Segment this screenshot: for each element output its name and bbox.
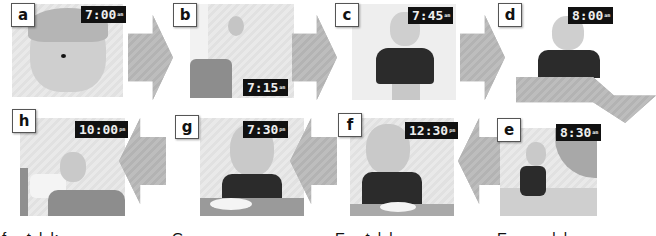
clock-time: 7:30 bbox=[247, 122, 278, 137]
clock-a: 7:00 am bbox=[81, 6, 126, 23]
clock-d: 8:00 am bbox=[568, 7, 613, 24]
arrow-right-3 bbox=[460, 15, 505, 100]
boy-body bbox=[362, 172, 422, 204]
clock-ampm: am bbox=[444, 13, 450, 18]
caption-2: G . bbox=[172, 229, 198, 236]
uniform-jacket bbox=[376, 48, 434, 84]
clock-c: 7:45 am bbox=[408, 7, 453, 24]
panel-label-f: f bbox=[338, 113, 362, 137]
clock-f: 12:30 pm bbox=[405, 122, 458, 139]
panel-label-d: d bbox=[498, 3, 522, 27]
clock-ampm: pm bbox=[449, 128, 455, 133]
boy-body bbox=[222, 174, 282, 200]
clock-g: 7:30 pm bbox=[243, 121, 288, 138]
boy-head bbox=[526, 142, 546, 166]
clock-ampm: pm bbox=[279, 127, 285, 132]
towel bbox=[190, 59, 232, 98]
boy-walking-body bbox=[520, 166, 546, 196]
arrow-right-2 bbox=[292, 15, 337, 100]
clock-ampm: am bbox=[279, 85, 285, 90]
panel-label-c: c bbox=[335, 3, 359, 27]
panel-label-g: g bbox=[175, 115, 199, 139]
clock-time: 10:00 bbox=[79, 122, 118, 137]
clock-time: 8:30 bbox=[560, 125, 591, 140]
lunch-plate bbox=[380, 202, 416, 212]
clock-time: 7:15 bbox=[247, 80, 278, 95]
dinner-plate bbox=[210, 198, 252, 210]
clock-time: 8:00 bbox=[572, 8, 603, 23]
panel-label-h: h bbox=[12, 109, 36, 133]
blanket bbox=[48, 190, 125, 216]
boy-body bbox=[538, 50, 600, 78]
clock-ampm: am bbox=[592, 130, 598, 135]
caption-4: E . . . l l bbox=[497, 229, 569, 236]
clock-time: 7:45 bbox=[412, 8, 443, 23]
clock-ampm: pm bbox=[119, 127, 125, 132]
boy-showering bbox=[228, 16, 244, 36]
clock-time: 7:00 bbox=[85, 7, 116, 22]
caption-1: f . t l k . . bbox=[2, 229, 85, 236]
arrow-down-bent bbox=[516, 77, 656, 123]
clock-b: 7:15 am bbox=[243, 79, 288, 96]
clock-e: 8:30 am bbox=[556, 124, 601, 141]
bed-headboard bbox=[20, 168, 28, 216]
clock-ampm: am bbox=[604, 13, 610, 18]
arrow-right-1 bbox=[128, 15, 173, 100]
boy-in-bed bbox=[60, 152, 86, 182]
ground bbox=[500, 188, 597, 216]
panel-label-a: a bbox=[11, 3, 35, 27]
clock-ampm: am bbox=[117, 12, 123, 17]
caption-3: E . t l l . bbox=[335, 229, 407, 236]
eye bbox=[61, 54, 66, 58]
panel-label-b: b bbox=[173, 3, 197, 27]
shorts bbox=[392, 84, 420, 100]
boy-head bbox=[366, 124, 410, 174]
panel-label-e: e bbox=[497, 118, 521, 142]
clock-time: 12:30 bbox=[409, 123, 448, 138]
clock-h: 10:00 pm bbox=[75, 121, 128, 138]
